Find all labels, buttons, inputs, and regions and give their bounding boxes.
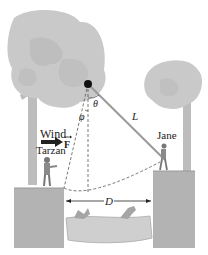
left-cliff [14,188,64,248]
pivot-point-icon [84,80,92,88]
wind-label: Wind [40,128,66,140]
jane-label: Jane [157,130,177,141]
tarzan-jane-diagram: Wind F Tarzan Jane L θ φ D [0,0,208,255]
swing-arc [64,162,160,191]
phi-arc [85,110,88,111]
diagram-graphic [0,0,208,255]
tarzan-label: Tarzan [36,145,66,156]
tarzan-figure [44,157,57,186]
left-tree [8,10,106,185]
right-cliff [153,171,195,248]
jane-figure [160,144,167,171]
theta-label: θ [93,99,98,109]
distance-label: D [104,196,114,207]
phi-label: φ [79,112,85,122]
river-water [66,216,152,243]
rope-length-label: L [132,111,138,122]
